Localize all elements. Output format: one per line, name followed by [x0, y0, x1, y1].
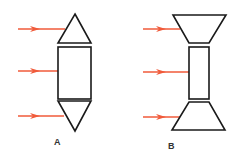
bottom-trapezoid-b: [172, 102, 225, 130]
panel-label-b: B: [168, 141, 175, 151]
rectangle-b: [189, 47, 209, 99]
panel-label-a: A: [54, 137, 61, 147]
panel-a: [18, 14, 91, 131]
panel-b: [143, 15, 226, 130]
diagram-canvas: [0, 0, 237, 159]
top-trapezoid-b: [173, 15, 226, 43]
rectangle-a: [58, 47, 91, 99]
